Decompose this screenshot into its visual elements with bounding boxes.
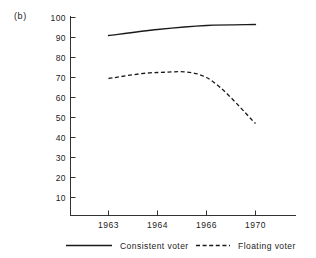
y-axis-ticks (71, 18, 76, 198)
y-tick-label: 30 (56, 153, 66, 163)
y-tick-label: 10 (56, 193, 66, 203)
y-tick-label: 60 (56, 93, 66, 103)
y-tick-label: 70 (56, 73, 66, 83)
chart-legend: Consistent voter Floating voter (66, 241, 296, 251)
legend-label-floating-voter: Floating voter (238, 241, 296, 251)
y-tick-label: 50 (56, 113, 66, 123)
legend-label-consistent-voter: Consistent voter (120, 241, 189, 251)
y-tick-label: 100 (51, 13, 66, 23)
x-tick-label: 1964 (147, 220, 168, 230)
x-tick-label: 1966 (196, 220, 217, 230)
series-line-consistent-voter (109, 25, 256, 36)
y-tick-label: 90 (56, 33, 66, 43)
x-tick-label: 1963 (98, 220, 119, 230)
x-axis-tick-labels: 1963 1964 1966 1970 (98, 220, 266, 230)
x-tick-label: 1970 (245, 220, 266, 230)
y-tick-label: 40 (56, 133, 66, 143)
y-tick-label: 80 (56, 53, 66, 63)
figure-container: (b) 100 90 80 70 60 50 40 30 (0, 0, 316, 258)
y-tick-label: 20 (56, 173, 66, 183)
y-axis-tick-labels: 100 90 80 70 60 50 40 30 20 10 (51, 13, 66, 203)
series-line-floating-voter (109, 72, 256, 124)
line-chart: 100 90 80 70 60 50 40 30 20 10 1963 1964… (0, 0, 316, 258)
x-axis-ticks (109, 211, 256, 216)
